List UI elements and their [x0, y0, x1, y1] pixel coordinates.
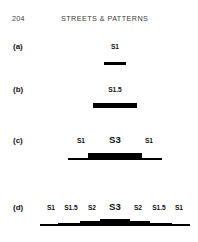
segment-bar — [104, 62, 126, 65]
segment-label: S1 — [47, 202, 55, 213]
segment-label: S3 — [109, 201, 121, 212]
segment-label-strip: S1.5 — [0, 84, 198, 95]
segment-label: S2 — [134, 202, 142, 213]
segment-label: S1 — [111, 41, 119, 52]
segment-label-strip: S1 — [0, 41, 198, 52]
segment-label: S1.5 — [108, 84, 122, 95]
segment-label: S1.5 — [64, 202, 78, 213]
segment-label: S1 — [77, 135, 85, 146]
book-page: 204 STREETS & PATTERNS (a)S1(b)S1.5(c)S1… — [0, 0, 198, 242]
segment-bar — [93, 103, 137, 108]
running-title: STREETS & PATTERNS — [61, 14, 148, 23]
segment-label-strip: S1S3S1 — [0, 135, 198, 146]
segment-bar — [136, 158, 162, 160]
segment-bar — [88, 153, 142, 160]
segment-bar — [168, 224, 190, 226]
segment-label: S1 — [175, 202, 183, 213]
segment-label: S3 — [109, 134, 121, 145]
segment-label: S1.5 — [152, 202, 166, 213]
page-folio: 204 — [12, 14, 25, 23]
segment-label-strip: S1S1.5S2S3S2S1.5S1 — [0, 202, 198, 213]
segment-label: S2 — [88, 202, 96, 213]
segment-label: S1 — [145, 135, 153, 146]
running-head: 204 STREETS & PATTERNS — [0, 14, 198, 26]
